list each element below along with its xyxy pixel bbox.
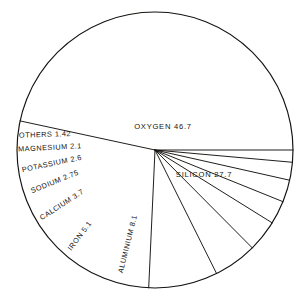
- pie-slice-label-oxygen: OXYGEN 46.7: [134, 122, 192, 131]
- pie-slice-label-others: OTHERS 1.42: [19, 129, 71, 140]
- pie-slice-label-silicon: SILICON 27.7: [176, 170, 232, 179]
- pie-chart-figure: OXYGEN 46.7SILICON 27.7ALUMINIUM 8.1IRON…: [0, 0, 306, 297]
- pie-chart-canvas: OXYGEN 46.7SILICON 27.7ALUMINIUM 8.1IRON…: [0, 0, 306, 297]
